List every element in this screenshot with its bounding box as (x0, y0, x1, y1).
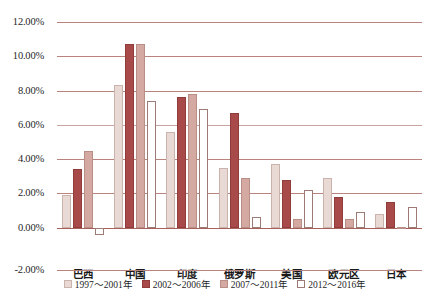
legend-item[interactable]: 1997～2001年 (64, 277, 133, 291)
bar (136, 44, 145, 227)
bar (188, 94, 197, 228)
bar (334, 197, 343, 228)
y-axis-tick-label: 10.00% (0, 51, 44, 62)
bar (219, 168, 228, 228)
legend-item[interactable]: 2007～2011年 (220, 277, 289, 291)
bar (304, 190, 313, 228)
legend-swatch-icon (220, 280, 228, 288)
bar (397, 227, 406, 229)
legend-label: 2007～2011年 (231, 277, 289, 291)
bar (199, 109, 208, 227)
bar (408, 207, 417, 228)
gridline (57, 91, 422, 92)
bar (323, 178, 332, 228)
bar (293, 219, 302, 228)
bar (386, 202, 395, 228)
bar (252, 217, 261, 227)
bar (62, 195, 71, 228)
legend-item[interactable]: 2002～2006年 (142, 277, 211, 291)
bar (356, 212, 365, 227)
gridline (57, 159, 422, 160)
bar (84, 151, 93, 228)
bar (271, 164, 280, 227)
legend-label: 2012～2016年 (308, 277, 366, 291)
legend-swatch-icon (142, 280, 150, 288)
bar (177, 97, 186, 227)
bar (230, 113, 239, 228)
legend-swatch-icon (64, 280, 72, 288)
plot-area: 12.00%10.00%8.00%6.00%4.00%2.00%0.00%-2.… (57, 22, 422, 262)
bar (114, 85, 123, 227)
bar (147, 101, 156, 228)
y-axis-tick-label: 6.00% (0, 120, 44, 131)
legend-label: 2002～2006年 (153, 277, 211, 291)
legend-label: 1997～2001年 (75, 277, 133, 291)
gridline (57, 193, 422, 194)
legend-swatch-icon (297, 280, 305, 288)
bar (95, 228, 104, 235)
bar (345, 219, 354, 228)
y-axis-tick-label: 0.00% (0, 223, 44, 234)
bottom-axis-rule (57, 270, 422, 271)
gridline (57, 22, 422, 23)
y-axis-tick-label: 12.00% (0, 17, 44, 28)
gridline (57, 125, 422, 126)
y-axis-tick-label: -2.00% (0, 265, 44, 276)
bar (282, 180, 291, 228)
chart-legend: 1997～2001年2002～2006年2007～2011年2012～2016年 (0, 277, 430, 291)
y-axis-tick-label: 2.00% (0, 188, 44, 199)
y-axis-tick-label: 4.00% (0, 154, 44, 165)
gridline (57, 56, 422, 57)
bar (375, 214, 384, 228)
bar (241, 178, 250, 228)
y-axis-tick-label: 8.00% (0, 86, 44, 97)
bar (125, 44, 134, 227)
gridline (57, 228, 422, 229)
bar-chart: 12.00%10.00%8.00%6.00%4.00%2.00%0.00%-2.… (0, 0, 430, 300)
bar (166, 132, 175, 228)
legend-item[interactable]: 2012～2016年 (297, 277, 366, 291)
bar (73, 169, 82, 227)
